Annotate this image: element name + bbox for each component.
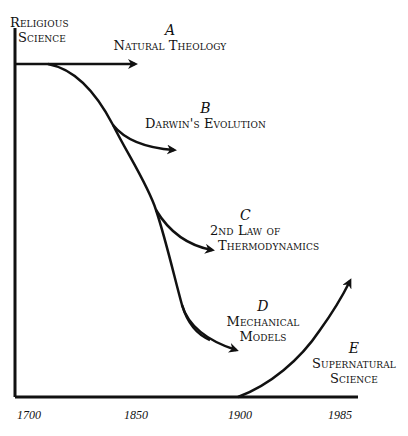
branch-a-label: A Natural Theology xyxy=(110,22,230,54)
branch-d-text-line-1: Mechanical xyxy=(220,315,306,330)
branch-c-label: C 2nd Law of Thermodynamics xyxy=(210,207,319,254)
branch-d-letter: D xyxy=(220,298,306,315)
branch-e-label: E Supernatural Science xyxy=(308,340,400,387)
y-axis-label: Religious Science xyxy=(10,16,69,46)
branch-a-text: Natural Theology xyxy=(110,39,230,54)
branch-d-label: D Mechanical Models xyxy=(220,298,306,345)
branch-b-text: Darwin's Evolution xyxy=(143,117,268,132)
x-tick-1700: 1700 xyxy=(17,408,41,423)
branch-c-text-line-1: 2nd Law of xyxy=(210,224,319,239)
branch-c-letter: C xyxy=(210,207,319,224)
branch-c-arrow xyxy=(156,210,212,250)
branch-e-text-line-2: Science xyxy=(308,372,400,387)
branch-e-letter: E xyxy=(308,340,400,357)
x-tick-1850: 1850 xyxy=(124,408,148,423)
y-axis-label-line-1: Religious xyxy=(10,16,69,31)
y-axis-label-line-2: Science xyxy=(10,31,69,46)
x-tick-1985: 1985 xyxy=(328,408,352,423)
branch-d-text-line-2: Models xyxy=(220,330,306,345)
branch-e-text-line-1: Supernatural xyxy=(308,357,400,372)
branch-b-letter: B xyxy=(143,100,268,117)
branch-c-text-line-2: Thermodynamics xyxy=(210,239,319,254)
branch-b-label: B Darwin's Evolution xyxy=(143,100,268,132)
branch-a-letter: A xyxy=(110,22,230,39)
x-tick-1900: 1900 xyxy=(228,408,252,423)
